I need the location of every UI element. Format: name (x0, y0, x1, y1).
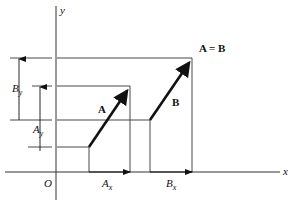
vector-a (89, 91, 127, 147)
y-axis-label: y (60, 5, 65, 16)
x-axis-label: x (283, 166, 288, 177)
by-label: By (12, 83, 22, 94)
vector-b (150, 63, 189, 120)
vector-b-label: B (172, 97, 179, 108)
ax-label: Ax (102, 178, 112, 189)
origin-label: O (44, 178, 52, 189)
bx-label: Bx (166, 178, 176, 189)
diagram-svg (0, 0, 292, 206)
vector-a-label: A (98, 104, 106, 115)
ay-label: Ay (33, 124, 43, 135)
equality-label: A = B (199, 43, 225, 54)
vector-diagram: y x O A B A = B Ax Bx Ay By (0, 0, 292, 206)
